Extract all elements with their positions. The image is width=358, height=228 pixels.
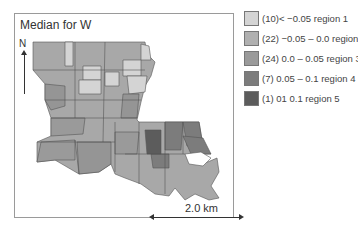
- legend-item-region-3: (24) 0.0 – 0.05 region 3: [244, 48, 358, 68]
- legend-item-region-1: (10)< −0.05 region 1: [244, 8, 358, 28]
- swatch: [244, 51, 259, 66]
- scale-label: 2.0 km: [185, 202, 218, 214]
- legend-item-region-4: (7) 0.05 – 0.1 region 4: [244, 68, 358, 88]
- scale-bar: 2.0 km: [149, 206, 244, 220]
- swatch: [244, 11, 259, 26]
- swatch: [244, 71, 259, 86]
- legend-item-region-5: (1) 01 0.1 region 5: [244, 88, 358, 108]
- louisiana-parish-map: [15, 14, 233, 217]
- legend-item-region-2: (22) −0.05 – 0.0 region 2: [244, 28, 358, 48]
- arrow-right-icon: [239, 214, 244, 220]
- swatch: [244, 31, 259, 46]
- map-frame: Median for W N: [14, 13, 234, 218]
- swatch: [244, 91, 259, 106]
- legend: (10)< −0.05 region 1 (22) −0.05 – 0.0 re…: [244, 8, 358, 108]
